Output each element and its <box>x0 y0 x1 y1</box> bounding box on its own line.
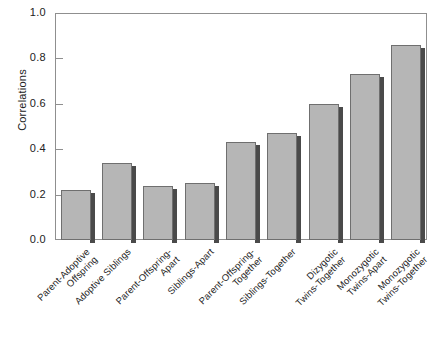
bar[interactable] <box>61 190 96 240</box>
bar-body <box>143 186 173 240</box>
y-tick-label: 0.0 <box>0 233 46 245</box>
y-tick-label: 0.6 <box>0 97 46 109</box>
bar-body <box>267 133 297 240</box>
bar-body <box>61 190 91 240</box>
y-tick-label: 0.2 <box>0 188 46 200</box>
bar-body <box>391 45 421 240</box>
bar-body <box>309 104 339 240</box>
bar[interactable] <box>309 104 344 240</box>
bar-chart: Correlations 0.00.20.40.60.81.0 Parent-A… <box>0 0 438 340</box>
bar[interactable] <box>143 186 178 240</box>
bar-body <box>226 142 256 240</box>
bar[interactable] <box>226 142 261 240</box>
bar[interactable] <box>350 74 385 240</box>
bar-body <box>350 74 380 240</box>
bar[interactable] <box>102 163 137 240</box>
y-tick-label: 0.8 <box>0 51 46 63</box>
bar[interactable] <box>267 133 302 240</box>
y-tick-label: 1.0 <box>0 6 46 18</box>
bar-body <box>102 163 132 240</box>
y-tick-label: 0.4 <box>0 142 46 154</box>
bar[interactable] <box>185 183 220 240</box>
bar[interactable] <box>391 45 426 240</box>
bar-body <box>185 183 215 240</box>
bar-series <box>55 13 427 240</box>
